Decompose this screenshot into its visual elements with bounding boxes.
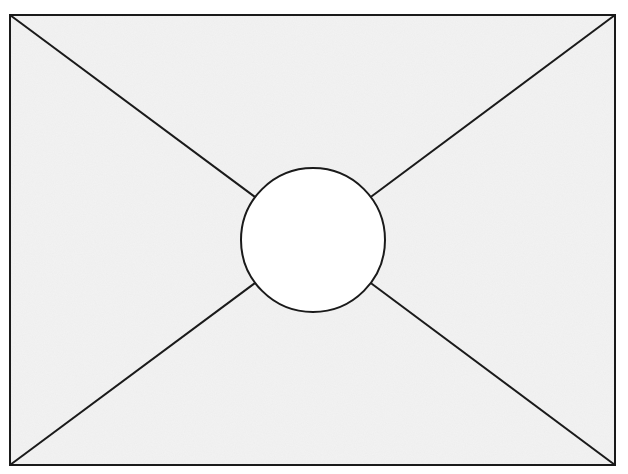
- center-circle: [241, 168, 385, 312]
- diagram-canvas: [0, 0, 628, 474]
